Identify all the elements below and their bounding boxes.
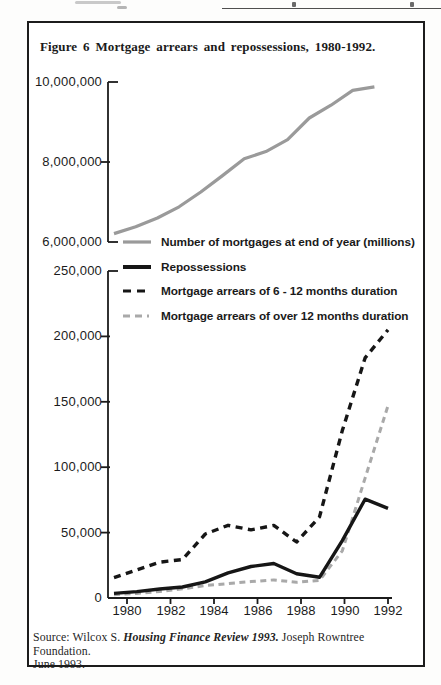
scanned-report-page: Figure 6 Mortgage arrears and repossessi…: [0, 0, 441, 685]
x-axis-label: 1992: [366, 603, 410, 618]
chart-legend: Number of mortgages at end of year (mill…: [121, 230, 421, 328]
page-header-remnant-left-2: [117, 6, 127, 9]
source-publication: Housing Finance Review 1993.: [123, 630, 279, 644]
legend-label: Number of mortgages at end of year (mill…: [161, 235, 415, 249]
y-axis-label: 8,000,000: [30, 154, 102, 169]
legend-line-sample-icon: [121, 286, 155, 296]
x-axis-label: 1986: [236, 603, 280, 618]
legend-item: Number of mortgages at end of year (mill…: [121, 230, 421, 255]
legend-item: Repossessions: [121, 255, 421, 280]
legend-line-sample-icon: [121, 311, 155, 321]
page-header-remnant-left: [75, 1, 121, 4]
source-note: Source: Wilcox S. Housing Finance Review…: [33, 631, 419, 672]
legend-line-sample-icon: [121, 237, 155, 247]
legend-label: Mortgage arrears of 6 - 12 months durati…: [161, 284, 397, 298]
source-prefix: Source: Wilcox S.: [33, 630, 123, 644]
y-axis-label: 150,000: [30, 394, 102, 409]
legend-line-sample-icon: [121, 262, 155, 272]
page-header-text-remnant-1: [292, 2, 296, 7]
legend-label: Mortgage arrears of over 12 months durat…: [161, 309, 408, 323]
y-axis-label: 50,000: [30, 525, 102, 540]
page-header-rule: [222, 8, 441, 9]
page-header-text-remnant-2: [410, 2, 414, 7]
x-axis-label: 1982: [149, 603, 193, 618]
y-axis-label: 10,000,000: [30, 74, 102, 89]
y-axis-label: 200,000: [30, 328, 102, 343]
x-axis-label: 1988: [279, 603, 323, 618]
y-axis-label: 100,000: [30, 459, 102, 474]
figure-title: Figure 6 Mortgage arrears and repossessi…: [40, 39, 410, 55]
legend-label: Repossessions: [161, 260, 246, 274]
source-line2: June 1993.: [33, 658, 419, 672]
y-axis-label: 6,000,000: [30, 234, 102, 249]
x-axis-label: 1980: [105, 603, 149, 618]
x-axis-label: 1990: [323, 603, 367, 618]
figure-border-box: [27, 21, 425, 667]
y-axis-label: 0: [30, 590, 102, 605]
y-axis-label: 250,000: [30, 263, 102, 278]
x-axis-label: 1984: [192, 603, 236, 618]
legend-item: Mortgage arrears of 6 - 12 months durati…: [121, 279, 421, 304]
legend-item: Mortgage arrears of over 12 months durat…: [121, 304, 421, 329]
